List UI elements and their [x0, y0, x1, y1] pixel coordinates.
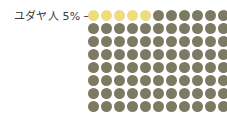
dot-base	[218, 49, 227, 60]
dot-base	[153, 10, 164, 21]
dot-base	[218, 36, 227, 47]
dot-base	[140, 101, 151, 112]
dot-base	[179, 36, 190, 47]
dot-base	[218, 75, 227, 86]
dot-base	[166, 23, 177, 34]
dot-base	[218, 62, 227, 73]
dot-base	[192, 75, 203, 86]
dot-highlight	[114, 10, 125, 21]
dot-base	[166, 62, 177, 73]
dot-base	[127, 23, 138, 34]
dot-base	[153, 36, 164, 47]
dot-base	[88, 49, 99, 60]
dot-base	[205, 49, 216, 60]
dot-base	[218, 23, 227, 34]
dot-base	[179, 10, 190, 21]
dot-highlight	[127, 10, 138, 21]
dot-base	[140, 62, 151, 73]
dot-base	[101, 62, 112, 73]
dot-base	[166, 49, 177, 60]
dot-base	[205, 88, 216, 99]
dot-row	[88, 49, 227, 62]
dot-base	[166, 10, 177, 21]
dot-base	[192, 10, 203, 21]
dot-base	[140, 49, 151, 60]
dot-base	[140, 88, 151, 99]
dot-base	[140, 36, 151, 47]
annotation-label: ユダヤ人 5% →	[14, 9, 93, 25]
dot-base	[205, 10, 216, 21]
dot-base	[114, 101, 125, 112]
dot-base	[153, 23, 164, 34]
dot-base	[153, 75, 164, 86]
dot-base	[88, 23, 99, 34]
dot-base	[140, 75, 151, 86]
dot-base	[179, 49, 190, 60]
dot-base	[114, 62, 125, 73]
annotation-label-text: ユダヤ人 5%	[14, 9, 80, 25]
dot-row	[88, 62, 227, 75]
dot-base	[140, 23, 151, 34]
dot-highlight	[140, 10, 151, 21]
dot-base	[166, 101, 177, 112]
dot-base	[205, 101, 216, 112]
dot-base	[127, 49, 138, 60]
dot-base	[101, 23, 112, 34]
dot-highlight	[101, 10, 112, 21]
dot-base	[192, 101, 203, 112]
dot-base	[179, 88, 190, 99]
dot-base	[166, 75, 177, 86]
dot-base	[88, 88, 99, 99]
dot-base	[153, 49, 164, 60]
dot-row	[88, 36, 227, 49]
dot-base	[179, 62, 190, 73]
dot-highlight	[88, 10, 99, 21]
dot-base	[101, 36, 112, 47]
dot-base	[179, 75, 190, 86]
dot-base	[101, 75, 112, 86]
dot-base	[218, 88, 227, 99]
dot-base	[192, 36, 203, 47]
dot-base	[127, 36, 138, 47]
dot-row	[88, 75, 227, 88]
pictogram-chart: ユダヤ人 5% →	[0, 0, 227, 114]
dot-base	[114, 75, 125, 86]
dot-base	[192, 49, 203, 60]
dot-base	[192, 62, 203, 73]
dot-base	[127, 62, 138, 73]
dot-base	[114, 23, 125, 34]
dot-base	[88, 75, 99, 86]
dot-base	[166, 36, 177, 47]
dot-base	[114, 36, 125, 47]
dot-base	[205, 36, 216, 47]
dot-base	[179, 23, 190, 34]
dot-base	[101, 88, 112, 99]
dot-base	[101, 49, 112, 60]
dot-base	[205, 62, 216, 73]
dot-matrix	[88, 10, 227, 114]
dot-row	[88, 23, 227, 36]
dot-row	[88, 10, 227, 23]
dot-base	[127, 101, 138, 112]
dot-base	[153, 62, 164, 73]
dot-base	[205, 75, 216, 86]
dot-base	[101, 101, 112, 112]
dot-base	[114, 49, 125, 60]
dot-base	[88, 62, 99, 73]
dot-base	[218, 10, 227, 21]
dot-base	[127, 88, 138, 99]
dot-base	[153, 101, 164, 112]
dot-base	[192, 23, 203, 34]
dot-row	[88, 88, 227, 101]
dot-base	[192, 88, 203, 99]
dot-row	[88, 101, 227, 114]
dot-base	[114, 88, 125, 99]
dot-base	[88, 101, 99, 112]
dot-base	[205, 23, 216, 34]
dot-base	[179, 101, 190, 112]
dot-base	[153, 88, 164, 99]
dot-base	[88, 36, 99, 47]
dot-base	[127, 75, 138, 86]
dot-base	[166, 88, 177, 99]
dot-base	[218, 101, 227, 112]
